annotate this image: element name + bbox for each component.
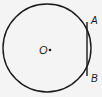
center-point <box>49 49 52 52</box>
circle-diagram: O A B <box>0 0 102 97</box>
point-b-label: B <box>91 73 98 84</box>
point-a-label: A <box>90 15 98 26</box>
center-label: O <box>39 44 48 56</box>
